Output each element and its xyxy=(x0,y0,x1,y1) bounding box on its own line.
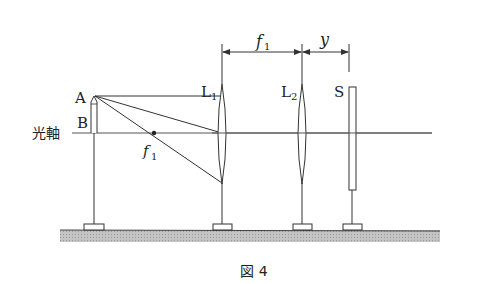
dimension-lines xyxy=(222,44,349,84)
optics-diagram: A B 光軸 f 1 L 1 L 2 S f 1 y 図 4 xyxy=(0,0,491,284)
label-focal-sub: 1 xyxy=(151,151,157,162)
label-screen: S xyxy=(334,83,344,101)
lens-l1 xyxy=(213,84,232,230)
screen-s xyxy=(343,87,362,230)
object-arrow xyxy=(91,96,97,133)
label-l1-sub: 1 xyxy=(211,91,217,102)
light-rays xyxy=(95,96,222,183)
object-holder xyxy=(84,133,104,230)
label-l1: L xyxy=(201,83,211,101)
label-l2: L xyxy=(281,83,291,101)
lens-l2 xyxy=(293,84,312,230)
optical-bench xyxy=(60,230,440,242)
label-focal-point: f xyxy=(142,142,151,160)
label-b: B xyxy=(77,114,88,132)
label-a: A xyxy=(74,89,86,107)
label-dim-y: y xyxy=(319,30,330,49)
label-optical-axis: 光軸 xyxy=(32,125,60,141)
label-dim-f1-sub: 1 xyxy=(264,41,270,52)
focal-point-dot xyxy=(152,131,156,135)
label-l2-sub: 2 xyxy=(291,91,297,102)
figure-caption: 図 4 xyxy=(240,263,267,279)
